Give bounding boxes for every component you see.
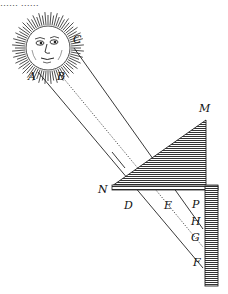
label-N: N — [98, 184, 108, 195]
optics-diagram — [0, 0, 228, 294]
label-D: D — [124, 200, 133, 211]
label-A: A — [28, 71, 36, 82]
label-M: M — [199, 103, 210, 114]
label-B: B — [57, 71, 65, 82]
cropped-header-text: …… …… — [0, 0, 228, 6]
label-G: G — [191, 232, 200, 243]
vertical-screen — [205, 186, 218, 286]
horizontal-bar — [112, 185, 218, 190]
label-F: F — [193, 257, 201, 268]
label-H: H — [191, 216, 201, 227]
label-C: C — [73, 34, 81, 45]
gnomon-triangle — [112, 120, 206, 186]
diagram-canvas: …… …… — [0, 0, 228, 294]
sun-face — [26, 26, 70, 70]
label-P: P — [192, 199, 199, 210]
label-E: E — [164, 200, 172, 211]
